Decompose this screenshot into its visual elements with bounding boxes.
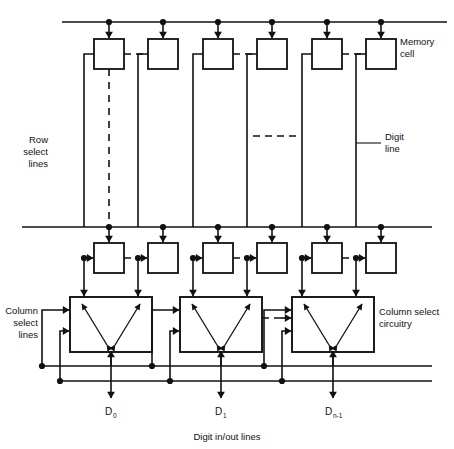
column-select-circuitry-label-line1: Column select <box>379 306 440 317</box>
digit-line-label-line2: line <box>385 143 400 154</box>
column-select-box-0 <box>70 297 152 352</box>
digit-line-label: Digit line <box>356 131 404 154</box>
memory-cell <box>148 39 178 69</box>
memory-cell <box>257 39 287 69</box>
column-select-lines-label-line2: select <box>13 317 38 328</box>
memory-cell <box>94 243 124 273</box>
row-select-lines-label: Row select lines <box>23 134 48 169</box>
d0-label: D 0 <box>105 406 117 419</box>
row-select-line-0 <box>62 19 447 38</box>
column-select-lines-label-line3: lines <box>18 329 38 340</box>
column-select-box-1 <box>180 297 262 352</box>
row-select-label-line2: select <box>23 146 48 157</box>
digit-line-label-line1: Digit <box>385 131 404 142</box>
column-select-lines-label: Column select lines <box>5 305 38 340</box>
digit-lines <box>84 54 366 227</box>
d1-base: D <box>215 406 222 417</box>
d1-label: D 1 <box>215 406 227 419</box>
memory-cell-label: Memory cell <box>400 36 435 59</box>
d0-subscript: 0 <box>113 412 117 419</box>
d0-base: D <box>105 406 112 417</box>
d1-subscript: 1 <box>223 412 227 419</box>
dn1-base: D <box>325 406 332 417</box>
column-select-circuitry-label: Column select circuitry <box>379 306 440 329</box>
memory-cell <box>203 243 233 273</box>
diagram-caption: Digit in/out lines <box>193 431 260 442</box>
diagram-canvas: Row select lines Digit line Memory cell <box>0 0 454 449</box>
memory-cell-label-line1: Memory <box>400 36 435 47</box>
dn1-subscript: n-1 <box>333 412 343 419</box>
memory-cell <box>366 39 396 69</box>
memory-cell-label-line2: cell <box>400 48 414 59</box>
memory-cell <box>257 243 287 273</box>
memory-cell <box>148 243 178 273</box>
row-select-line-1 <box>22 224 432 242</box>
memory-cell <box>312 39 342 69</box>
memory-array-diagram: Row select lines Digit line Memory cell <box>0 0 454 449</box>
digit-output-lines <box>111 351 333 398</box>
row-select-label-line3: lines <box>28 158 48 169</box>
memory-cell <box>312 243 342 273</box>
memory-cell <box>203 39 233 69</box>
memory-cell <box>366 243 396 273</box>
row-select-label-line1: Row <box>29 134 48 145</box>
memory-cell <box>94 39 124 69</box>
column-select-lines-label-line1: Column <box>5 305 38 316</box>
column-select-box-2 <box>292 297 374 352</box>
dn1-label: D n-1 <box>325 406 343 419</box>
column-select-circuitry-label-line2: circuitry <box>379 318 412 329</box>
